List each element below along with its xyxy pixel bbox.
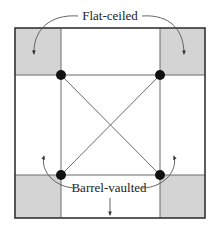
vault-plan-diagram: Flat-ceiled Barrel-vaulted [0,0,216,232]
corner-bay-top-right [160,28,205,75]
pier-dot-top-right [155,70,165,80]
pier-dot-bottom-right [155,170,165,180]
pier-dot-top-left [56,70,66,80]
corner-bay-bottom-left [15,175,61,218]
label-barrel-vaulted: Barrel-vaulted [71,180,147,195]
label-flat-ceiled: Flat-ceiled [82,8,138,23]
pier-dot-bottom-left [56,170,66,180]
corner-bay-bottom-right [160,175,205,218]
